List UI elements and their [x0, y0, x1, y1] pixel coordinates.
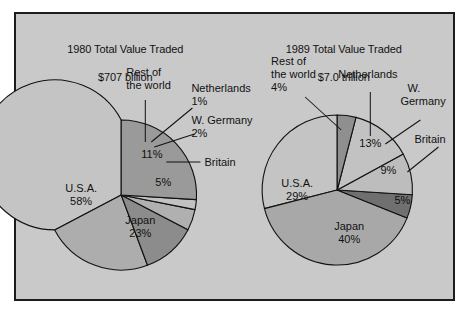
value-1989-britain: 5%	[394, 194, 410, 206]
label-1989-usa: U.S.A.	[281, 177, 313, 189]
pie-chart-1989: 1989 Total Value Traded $7.0 trillion	[235, 14, 454, 299]
label-1989-netherlands: Netherlands	[338, 68, 398, 80]
value-1980-usa: 58%	[70, 195, 92, 207]
chart-panel: 1980 Total Value Traded $707 billion	[14, 12, 455, 301]
label-1980-britain: Britain	[204, 156, 235, 168]
label-1989-britain: Britain	[414, 133, 445, 145]
pie-chart-1980: 1980 Total Value Traded $707 billion	[16, 14, 235, 299]
label-1989-rest-of-world-line2: the world	[271, 68, 316, 80]
value-1980-rest-of-world: 11%	[141, 148, 162, 160]
label-1989-wgermany-line1: W.	[407, 82, 420, 94]
label-1980-rest-of-world-line1: Rest of	[126, 66, 162, 78]
value-1989-rest-of-world: 4%	[271, 81, 287, 93]
value-1989-netherlands: 13%	[359, 137, 381, 149]
pie-svg-1980: Rest of the world Netherlands 1% W. Germ…	[16, 14, 235, 299]
label-1980-japan: Japan	[125, 214, 155, 226]
label-1980-rest-of-world-line2: the world	[126, 79, 171, 91]
label-1980-usa: U.S.A.	[65, 182, 97, 194]
value-1980-japan: 23%	[129, 227, 151, 239]
figure-root: 1980 Total Value Traded $707 billion	[0, 0, 467, 322]
value-1980-britain: 5%	[155, 176, 171, 188]
label-1989-rest-of-world-line1: Rest of	[271, 55, 307, 67]
label-1980-netherlands-pct: 1%	[191, 95, 207, 107]
pie-svg-1989: Rest of the world 4% Netherlands W. Germ…	[235, 14, 454, 299]
value-1989-japan: 40%	[338, 233, 360, 245]
label-1980-wgermany-pct: 2%	[191, 127, 207, 139]
value-1989-wgermany: 9%	[380, 164, 396, 176]
label-1989-wgermany-line2: Germany	[400, 95, 446, 107]
leader-1989-britain	[407, 147, 438, 172]
label-1989-japan: Japan	[334, 220, 364, 232]
value-1989-usa: 29%	[286, 190, 308, 202]
